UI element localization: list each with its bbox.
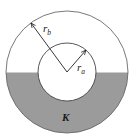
outer-radius-label: rb bbox=[43, 22, 51, 37]
diagram-canvas: rb ra K bbox=[0, 0, 133, 140]
inner-radius-label: ra bbox=[77, 61, 85, 76]
concentric-circles-diagram: rb ra K bbox=[0, 0, 133, 140]
dielectric-constant-label: K bbox=[61, 111, 70, 123]
